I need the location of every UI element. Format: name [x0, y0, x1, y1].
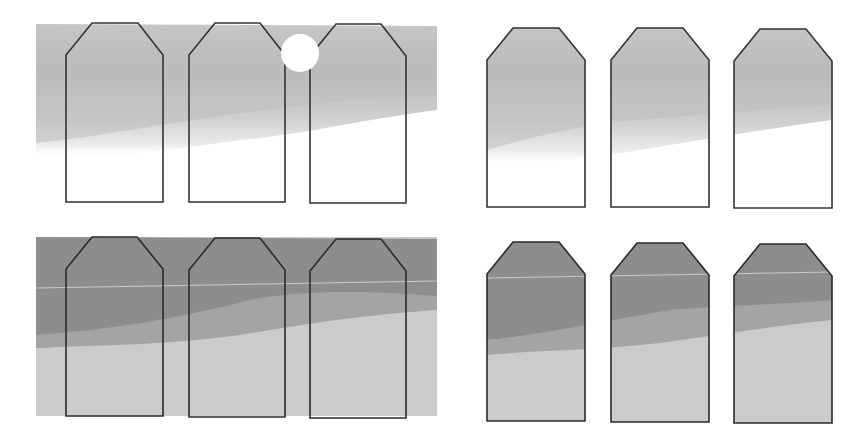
panel-bottom-right [487, 242, 832, 424]
tag-diagram [0, 0, 859, 446]
white-circle-marker [281, 34, 319, 72]
panel-bottom-left [36, 237, 437, 418]
panel-top-right [487, 24, 832, 208]
panel-top-left [36, 23, 437, 203]
